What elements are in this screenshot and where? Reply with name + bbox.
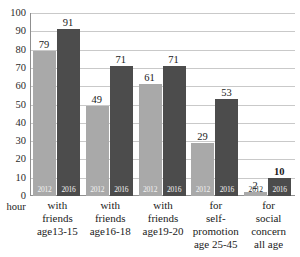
series-tag-2016: 2016: [268, 186, 291, 194]
x-axis-label-line: friends: [134, 212, 193, 225]
value-label: 91: [55, 17, 81, 28]
series-tag-2016: 2016: [215, 186, 238, 194]
bar-group: 201249201671: [86, 13, 139, 196]
value-label: 29: [189, 131, 215, 142]
y-axis-tick-label: 70: [0, 63, 26, 73]
series-tag-2012: 2012: [191, 186, 214, 194]
x-axis-unit-label: hour: [1, 201, 31, 213]
x-axis-label-line: friends: [81, 212, 140, 225]
x-axis-label-line: all age: [239, 238, 298, 251]
x-axis-label-line: self-: [186, 212, 245, 225]
value-label: 71: [161, 54, 187, 65]
x-axis-label-line: with: [134, 199, 193, 212]
x-axis-label-line: friends: [28, 212, 87, 225]
chart-title-cropped: [30, 0, 260, 7]
x-axis-label-line: age13-15: [28, 225, 87, 238]
x-axis-label-line: with: [28, 199, 87, 212]
series-tag-2016: 2016: [57, 186, 80, 194]
y-axis-tick-label: 40: [0, 118, 26, 128]
x-axis-label-line: age16-18: [81, 225, 140, 238]
series-tag-2012: 2012: [139, 186, 162, 194]
value-label: 79: [31, 39, 57, 50]
y-axis-tick-label: 20: [0, 154, 26, 164]
x-axis-label-line: for: [239, 199, 298, 212]
y-axis-tick-label: 60: [0, 81, 26, 91]
value-label: 49: [84, 94, 110, 105]
series-tag-2016: 2016: [110, 186, 133, 194]
x-axis-category-label: forself-promotionage 25-45: [186, 199, 245, 251]
bar-2016[interactable]: [57, 29, 80, 196]
value-label: 10: [266, 166, 292, 177]
bar-2016[interactable]: [163, 66, 186, 196]
y-axis-tick-label: 80: [0, 45, 26, 55]
x-axis-category-label: withfriendsage19-20: [134, 199, 193, 238]
value-label: 71: [108, 54, 134, 65]
value-label: 61: [137, 72, 163, 83]
y-axis-tick-label: 90: [0, 26, 26, 36]
x-axis-label-line: concern: [239, 225, 298, 238]
y-axis-tick-label: 30: [0, 136, 26, 146]
bar-group: 20122201610: [244, 13, 297, 196]
bar-group: 201229201653: [191, 13, 244, 196]
series-tag-2016: 2016: [163, 186, 186, 194]
bar-2012[interactable]: [33, 51, 56, 196]
x-axis-label-line: age19-20: [134, 225, 193, 238]
bar-2012[interactable]: [139, 84, 162, 196]
series-tag-2012: 2012: [86, 186, 109, 194]
y-axis-tick-label: 10: [0, 173, 26, 183]
x-axis-label-line: for: [186, 199, 245, 212]
bar-group: 201279201691: [33, 13, 86, 196]
value-label: 2: [242, 180, 268, 191]
bar-2012[interactable]: [86, 106, 109, 196]
bar-groups: 2012792016912012492016712012612016712012…: [31, 13, 295, 196]
x-axis-label-line: social: [239, 212, 298, 225]
bar-2016[interactable]: [110, 66, 133, 196]
x-axis-category-label: withfriendsage13-15: [28, 199, 87, 238]
y-axis-tick-label: 50: [0, 100, 26, 110]
series-tag-2012: 2012: [33, 186, 56, 194]
x-axis-label-line: with: [81, 199, 140, 212]
value-label: 53: [213, 87, 239, 98]
x-axis-label-line: promotion: [186, 225, 245, 238]
x-axis-labels: hour withfriendsage13-15withfriendsage16…: [0, 199, 300, 257]
x-axis-label-line: age 25-45: [186, 238, 245, 251]
x-axis-category-label: forsocialconcernall age: [239, 199, 298, 251]
bar-chart: 1009080706050403020100 20127920169120124…: [0, 0, 300, 257]
bar-2016[interactable]: [215, 99, 238, 196]
x-axis-category-label: withfriendsage16-18: [81, 199, 140, 238]
bar-group: 201261201671: [139, 13, 192, 196]
y-axis-tick-label: 100: [0, 8, 26, 18]
